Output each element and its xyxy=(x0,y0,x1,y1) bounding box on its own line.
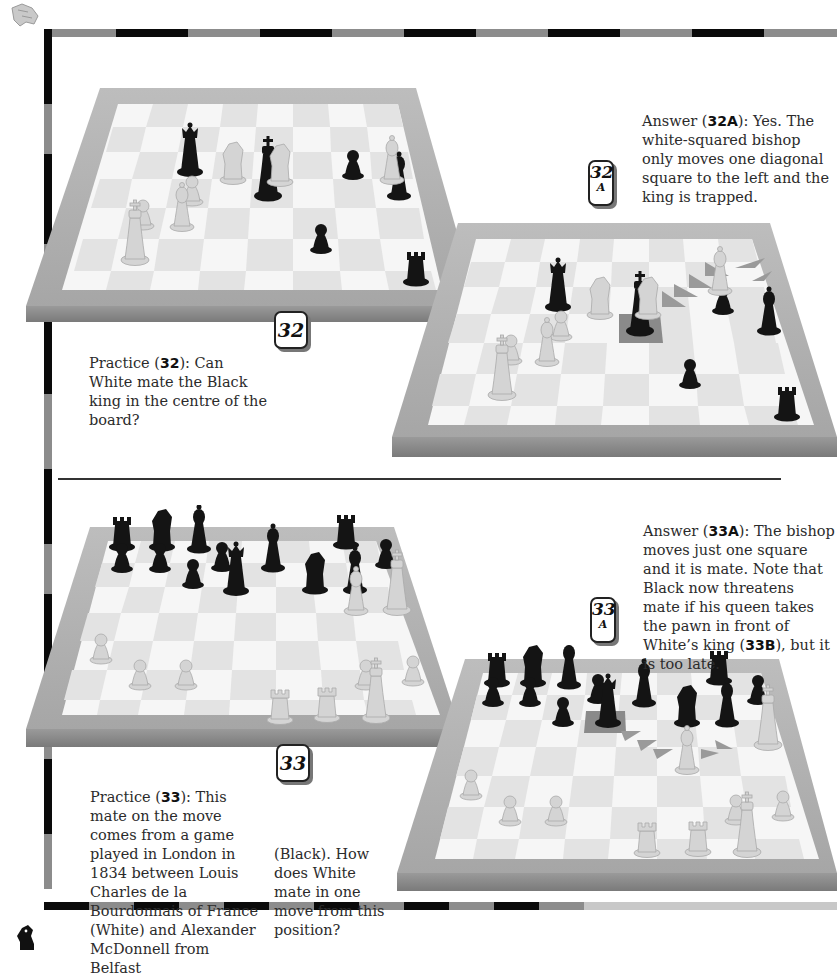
diagram-ref: 32A xyxy=(707,113,737,129)
badge-number: 33 xyxy=(592,599,614,619)
diagram-ref: 32 xyxy=(160,355,179,371)
badge-sub: A xyxy=(592,619,614,631)
chess-board-33a xyxy=(395,645,837,900)
diagram-badge-32a: 32 A xyxy=(588,160,614,206)
text: ): This mate on the move comes from a ga… xyxy=(90,789,258,976)
answer-32-text: Answer (32A): Yes. The white-squared bis… xyxy=(642,112,832,207)
text: Practice ( xyxy=(90,789,161,805)
badge-number: 32 xyxy=(276,313,306,347)
diagram-badge-33: 33 xyxy=(276,744,310,782)
chess-board-32a xyxy=(390,219,837,461)
badge-sub: A xyxy=(590,182,612,194)
white-knight-icon xyxy=(8,2,42,28)
answer-33-text: Answer (33A): The bishop moves just one … xyxy=(643,522,835,674)
diagram-ref: 33A xyxy=(708,523,738,539)
practice-32-text: Practice (32): Can White mate the Black … xyxy=(89,354,269,430)
page-frame-top xyxy=(44,29,837,37)
badge-number: 33 xyxy=(278,746,308,780)
text: ): The bishop moves just one square and … xyxy=(643,523,835,653)
practice-33-text-continued: (Black). How does White mate in one move… xyxy=(274,845,394,940)
diagram-badge-33a: 33 A xyxy=(590,597,616,643)
practice-33-text: Practice (33): This mate on the move com… xyxy=(90,788,260,977)
diagram-ref: 33B xyxy=(745,637,775,653)
badge-number: 32 xyxy=(590,162,612,182)
text: Answer ( xyxy=(642,113,707,129)
black-knight-icon xyxy=(14,922,38,952)
text: Answer ( xyxy=(643,523,708,539)
text: Practice ( xyxy=(89,355,160,371)
diagram-ref: 33 xyxy=(161,789,180,805)
diagram-badge-32: 32 xyxy=(274,311,308,349)
text: (Black). How does White mate in one move… xyxy=(274,846,385,938)
section-divider xyxy=(58,478,781,480)
